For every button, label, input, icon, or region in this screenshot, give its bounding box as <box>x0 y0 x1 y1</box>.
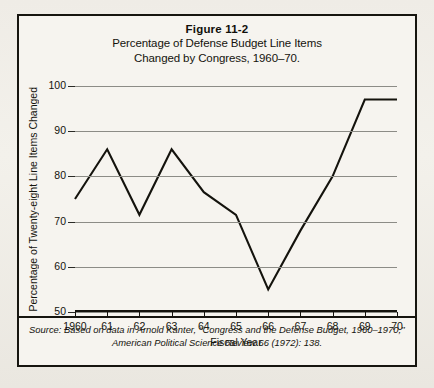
gridline-y-100 <box>75 86 397 87</box>
source-divider <box>19 316 415 318</box>
y-tick-mark-100 <box>68 86 75 87</box>
y-tick-mark-90 <box>68 131 75 132</box>
y-tick-label-70: 70 <box>54 215 66 227</box>
y-axis-title: Percentage of Twenty-eight Line Items Ch… <box>25 86 41 312</box>
source-citation-line-1: Based on data in Arnold Kanter, ‘‘Congre… <box>64 324 405 335</box>
plot-area: Fiscal Year 5060708090100196061626364656… <box>75 86 397 312</box>
y-tick-mark-60 <box>68 267 75 268</box>
source-note-line-1: Source: Based on data in Arnold Kanter, … <box>29 324 405 337</box>
page-background: Figure 11-2 Percentage of Defense Budget… <box>0 0 434 388</box>
y-tick-mark-70 <box>68 222 75 223</box>
gridline-y-90 <box>75 131 397 132</box>
source-citation-line-2: American Political Science Review 66 (19… <box>29 337 405 350</box>
y-tick-label-80: 80 <box>54 169 66 181</box>
y-tick-label-100: 100 <box>48 79 66 91</box>
gridline-y-80 <box>75 176 397 177</box>
y-tick-label-60: 60 <box>54 260 66 272</box>
figure-frame: Figure 11-2 Percentage of Defense Budget… <box>17 14 417 367</box>
y-tick-label-90: 90 <box>54 124 66 136</box>
gridline-y-60 <box>75 267 397 268</box>
source-prefix: Source: <box>29 324 61 335</box>
gridline-y-70 <box>75 222 397 223</box>
y-tick-mark-80 <box>68 176 75 177</box>
y-axis-title-text: Percentage of Twenty-eight Line Items Ch… <box>27 87 39 312</box>
y-tick-mark-50 <box>68 312 75 313</box>
data-series-line <box>75 86 397 312</box>
source-note: Source: Based on data in Arnold Kanter, … <box>29 324 405 349</box>
